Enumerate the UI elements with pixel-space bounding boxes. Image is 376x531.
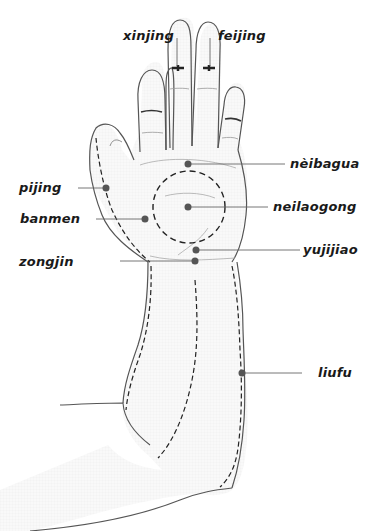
point-neilaogong <box>185 204 192 211</box>
point-liufu <box>239 370 246 377</box>
label-yujijiao: yujijiao <box>303 243 358 256</box>
point-zongjin <box>192 258 199 265</box>
point-banmen <box>142 216 149 223</box>
hand <box>90 18 248 262</box>
label-banmen: banmen <box>20 212 80 225</box>
point-pijing <box>103 185 110 192</box>
label-zongjin: zongjin <box>19 255 74 268</box>
label-liufu: liufu <box>318 366 352 379</box>
label-pijing: pijing <box>19 181 61 194</box>
label-feijing: feijing <box>218 29 266 42</box>
palm-fill <box>90 18 247 262</box>
point-yujijiao <box>193 247 200 254</box>
forearm-outline <box>122 262 247 495</box>
label-neibagua: nèibagua <box>290 157 360 170</box>
label-xinjing: xinjing <box>123 29 174 42</box>
arm <box>0 262 248 531</box>
label-neilaogong: neilaogong <box>273 200 357 213</box>
point-neibagua <box>185 161 192 168</box>
